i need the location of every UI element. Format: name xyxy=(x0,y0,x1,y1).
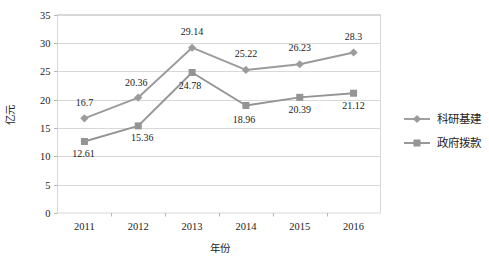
data-label: 28.3 xyxy=(345,31,363,42)
data-label: 18.96 xyxy=(233,114,256,125)
y-axis-ticks xyxy=(54,16,58,214)
legend-marker xyxy=(414,140,421,147)
chart-legend: 科研基建政府拨款 xyxy=(404,112,482,150)
x-tick-label: 2013 xyxy=(182,221,203,232)
x-axis-title: 年份 xyxy=(210,242,231,254)
y-tick-label: 30 xyxy=(40,38,51,49)
legend-marker xyxy=(413,115,421,123)
legend-label: 科研基建 xyxy=(437,112,482,126)
data-label: 16.7 xyxy=(76,97,94,108)
y-tick-label: 25 xyxy=(40,66,51,77)
x-axis-tick-labels: 201120122013201420152016 xyxy=(74,221,364,232)
data-label: 24.78 xyxy=(179,80,202,91)
line-chart: 05101520253035 201120122013201420152016 … xyxy=(0,0,489,274)
data-label: 20.36 xyxy=(125,77,148,88)
data-label: 12.61 xyxy=(72,148,95,159)
data-label: 25.22 xyxy=(235,48,258,59)
data-point-marker xyxy=(81,138,88,145)
data-label: 20.39 xyxy=(289,104,312,115)
y-tick-label: 0 xyxy=(45,208,50,219)
data-point-marker xyxy=(296,94,303,101)
y-tick-label: 10 xyxy=(40,151,51,162)
x-axis-ticks xyxy=(112,213,328,217)
y-tick-label: 15 xyxy=(40,123,51,134)
legend-item[interactable]: 政府拨款 xyxy=(404,136,482,150)
x-tick-label: 2014 xyxy=(235,221,257,232)
y-axis-title: 亿元 xyxy=(4,104,16,125)
data-point-marker xyxy=(189,69,196,76)
data-label: 21.12 xyxy=(342,100,365,111)
plot-area xyxy=(58,15,381,214)
x-tick-label: 2016 xyxy=(343,221,364,232)
chart-canvas: 05101520253035 201120122013201420152016 … xyxy=(0,0,489,274)
data-label: 15.36 xyxy=(131,132,154,143)
legend-label: 政府拨款 xyxy=(437,136,482,150)
y-tick-label: 20 xyxy=(40,95,51,106)
x-tick-label: 2011 xyxy=(74,221,95,232)
legend-item[interactable]: 科研基建 xyxy=(404,112,482,126)
x-tick-label: 2015 xyxy=(289,221,310,232)
figure-caption-strip xyxy=(0,266,489,274)
data-point-marker xyxy=(242,102,249,109)
data-label: 29.14 xyxy=(181,26,204,37)
y-tick-label: 35 xyxy=(40,10,51,21)
y-tick-label: 5 xyxy=(45,180,50,191)
data-point-marker xyxy=(135,122,142,129)
y-axis-tick-labels: 05101520253035 xyxy=(40,10,51,219)
data-point-marker xyxy=(350,90,357,97)
x-tick-label: 2012 xyxy=(128,221,149,232)
data-label: 26.23 xyxy=(289,42,312,53)
